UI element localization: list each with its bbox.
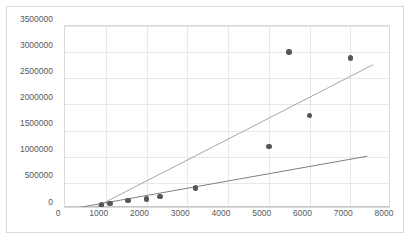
y-axis-tick-label: 2500000 xyxy=(7,67,53,76)
y-axis-tick-label: 3500000 xyxy=(7,15,53,24)
trendlines-layer xyxy=(65,26,389,207)
data-point-marker xyxy=(266,144,272,150)
data-point-marker xyxy=(286,49,292,55)
x-axis-tick-label: 3000 xyxy=(160,209,200,218)
y-axis-tick-label: 1000000 xyxy=(7,145,53,154)
data-point-marker xyxy=(99,202,105,207)
x-axis-tick-label: 0 xyxy=(38,209,78,218)
plot-inner xyxy=(65,26,389,207)
x-axis-tick-label: 6000 xyxy=(283,209,323,218)
data-point-marker xyxy=(193,185,199,191)
data-point-marker xyxy=(348,55,354,61)
x-axis-tick-label: 5000 xyxy=(242,209,282,218)
shallow-trendline xyxy=(71,156,368,207)
data-point-marker xyxy=(144,196,150,202)
x-axis-tick-label: 2000 xyxy=(120,209,160,218)
x-axis-tick-label: 1000 xyxy=(79,209,119,218)
x-axis-tick-label: 4000 xyxy=(201,209,241,218)
data-point-marker xyxy=(107,201,113,207)
steep-trendline xyxy=(88,65,373,207)
data-point-marker xyxy=(157,194,163,200)
y-axis-tick-label: 2000000 xyxy=(7,93,53,102)
y-axis-tick-label: 500000 xyxy=(7,171,53,180)
scatter-chart: 0500000100000015000002000000250000030000… xyxy=(0,0,411,240)
y-axis-tick-label: 1500000 xyxy=(7,119,53,128)
x-axis-tick-label: 7000 xyxy=(323,209,363,218)
y-axis-tick-label: 0 xyxy=(7,198,53,207)
plot-area xyxy=(64,25,390,208)
x-axis-tick-label: 8000 xyxy=(364,209,404,218)
chart-frame: 0500000100000015000002000000250000030000… xyxy=(6,6,404,233)
y-axis-tick-label: 3000000 xyxy=(7,41,53,50)
